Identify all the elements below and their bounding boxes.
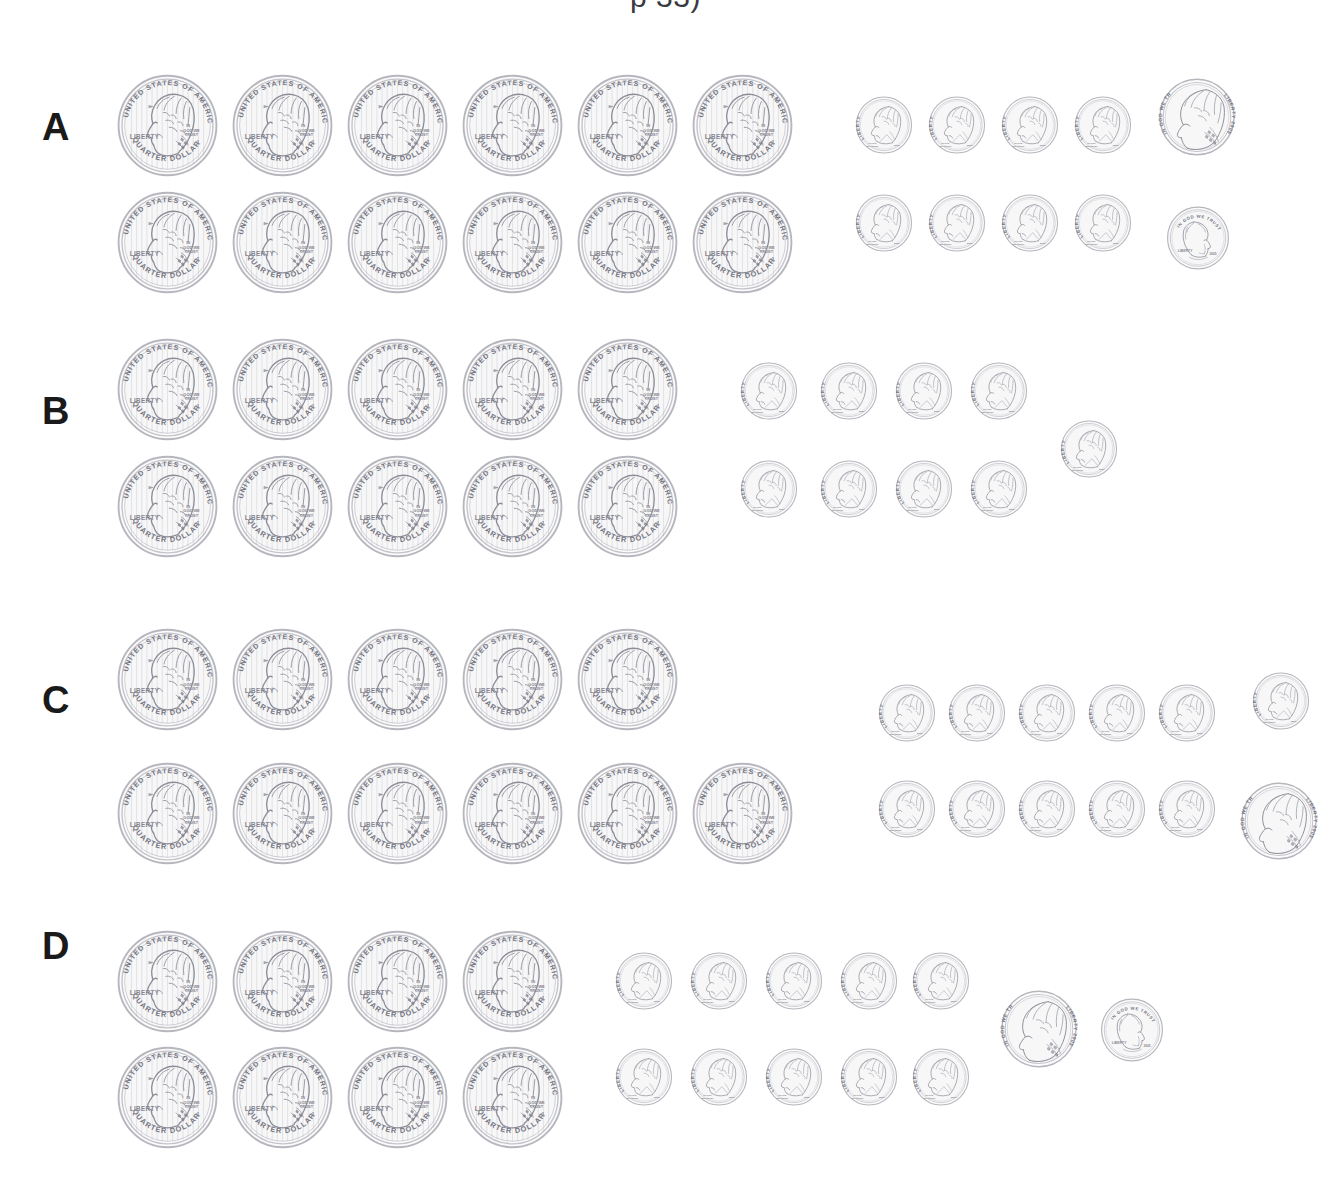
dime-coin (765, 952, 823, 1010)
nickel-coin (1158, 78, 1236, 156)
quarter-coin (346, 74, 449, 177)
quarter-coin (116, 191, 219, 294)
quarter-coin (461, 191, 564, 294)
quarter-coin (231, 1046, 334, 1149)
quarter-coin (576, 338, 679, 441)
dime-coin (615, 1048, 673, 1106)
dime-coin (820, 460, 878, 518)
coin-group-c: C (0, 610, 1331, 910)
dime-coin (1088, 780, 1146, 838)
quarter-coin (116, 762, 219, 865)
penny-coin (1100, 998, 1164, 1062)
quarter-coin (461, 628, 564, 731)
quarter-coin (231, 762, 334, 865)
dime-coin (740, 460, 798, 518)
quarter-coin (346, 191, 449, 294)
coin-group-d: D (0, 900, 1331, 1200)
dime-coin (912, 1048, 970, 1106)
dime-coin (1088, 684, 1146, 742)
quarter-coin (691, 74, 794, 177)
coin-layer-b (0, 320, 1331, 620)
quarter-coin (346, 762, 449, 865)
dime-coin (1074, 194, 1132, 252)
dime-coin (1252, 672, 1310, 730)
nickel-coin (1000, 990, 1078, 1068)
nickel-coin (1240, 782, 1318, 860)
coin-layer-c (0, 610, 1331, 910)
dime-coin (948, 780, 1006, 838)
quarter-coin (461, 455, 564, 558)
quarter-coin (576, 74, 679, 177)
quarter-coin (116, 338, 219, 441)
dime-coin (948, 684, 1006, 742)
quarter-coin (231, 455, 334, 558)
quarter-coin (576, 455, 679, 558)
dime-coin (1060, 420, 1118, 478)
dime-coin (878, 780, 936, 838)
dime-coin (615, 952, 673, 1010)
dime-coin (840, 1048, 898, 1106)
dime-coin (1001, 96, 1059, 154)
dime-coin (895, 362, 953, 420)
coin-layer-d (0, 900, 1331, 1200)
quarter-coin (576, 628, 679, 731)
quarter-coin (461, 74, 564, 177)
quarter-coin (116, 74, 219, 177)
quarter-coin (346, 628, 449, 731)
dime-coin (928, 96, 986, 154)
quarter-coin (461, 1046, 564, 1149)
dime-coin (928, 194, 986, 252)
dime-coin (765, 1048, 823, 1106)
coin-layer-a (0, 30, 1331, 330)
quarter-coin (116, 930, 219, 1033)
dime-coin (912, 952, 970, 1010)
dime-coin (690, 1048, 748, 1106)
dime-coin (1158, 684, 1216, 742)
dime-coin (1018, 684, 1076, 742)
quarter-coin (461, 338, 564, 441)
dime-coin (970, 460, 1028, 518)
dime-coin (895, 460, 953, 518)
dime-coin (840, 952, 898, 1010)
dime-coin (1158, 780, 1216, 838)
dime-coin (690, 952, 748, 1010)
dime-coin (1001, 194, 1059, 252)
quarter-coin (346, 338, 449, 441)
quarter-coin (691, 762, 794, 865)
coin-group-a: A (0, 30, 1331, 330)
quarter-coin (691, 191, 794, 294)
quarter-coin (346, 455, 449, 558)
quarter-coin (231, 191, 334, 294)
quarter-coin (231, 338, 334, 441)
quarter-coin (116, 455, 219, 558)
page-title-strip: p 33) (0, 0, 1331, 14)
quarter-coin (461, 930, 564, 1033)
coin-group-b: B (0, 320, 1331, 620)
dime-coin (1018, 780, 1076, 838)
quarter-coin (116, 628, 219, 731)
dime-coin (1074, 96, 1132, 154)
dime-coin (820, 362, 878, 420)
quarter-coin (346, 930, 449, 1033)
dime-coin (740, 362, 798, 420)
dime-coin (878, 684, 936, 742)
quarter-coin (231, 74, 334, 177)
quarter-coin (116, 1046, 219, 1149)
dime-coin (970, 362, 1028, 420)
dime-coin (855, 194, 913, 252)
quarter-coin (231, 930, 334, 1033)
penny-coin (1166, 206, 1230, 270)
quarter-coin (461, 762, 564, 865)
quarter-coin (576, 762, 679, 865)
page-title: p 33) (0, 0, 1331, 14)
quarter-coin (346, 1046, 449, 1149)
quarter-coin (576, 191, 679, 294)
dime-coin (855, 96, 913, 154)
quarter-coin (231, 628, 334, 731)
